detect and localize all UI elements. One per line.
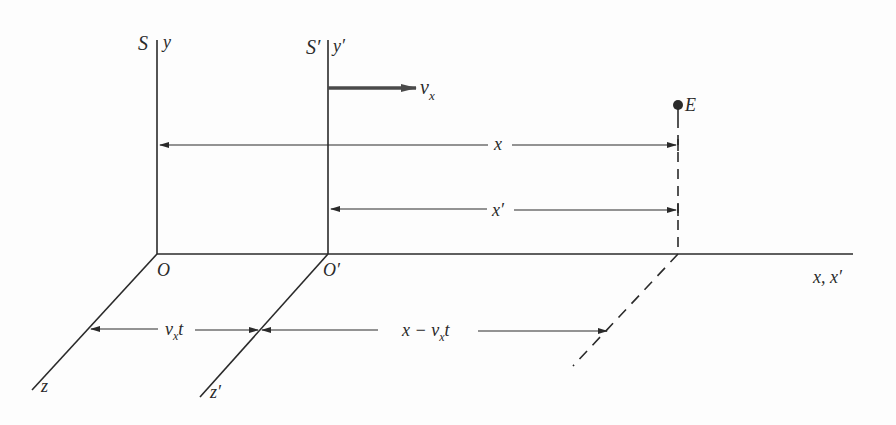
- event-E: E: [573, 95, 696, 366]
- origin-O-prime-label: O′: [323, 260, 341, 280]
- galilean-transformation-diagram: S y O z S′ y′ O′ z′ x, x′ vx E x: [0, 0, 896, 425]
- z-axis-S-prime: [200, 254, 328, 397]
- z-axis-S-prime-label: z′: [209, 382, 222, 402]
- velocity-vector: vx: [328, 76, 435, 103]
- event-label: E: [684, 95, 696, 115]
- frame-S-prime-label: S′: [306, 36, 321, 58]
- dimension-x: x: [160, 134, 678, 154]
- velocity-label: vx: [420, 76, 435, 103]
- z-axis-S-label: z: [40, 376, 48, 396]
- y-axis-S-prime-label: y′: [331, 36, 346, 56]
- dimension-vxt-label: vxt: [165, 319, 184, 343]
- origin-O-label: O: [157, 260, 170, 280]
- z-axis-S: [32, 254, 157, 390]
- event-z-projection-dashed: [573, 254, 678, 366]
- x-axis-label: x, x′: [812, 267, 843, 287]
- dimension-x-prime: x′: [331, 200, 678, 220]
- dimension-vxt: vxt: [91, 319, 258, 343]
- dimension-x-prime-label: x′: [491, 200, 505, 220]
- dimension-x-minus-vxt-label: x − vxt: [401, 320, 450, 344]
- y-axis-S-label: y: [161, 32, 171, 52]
- frame-S-prime: S′ y′ O′ z′: [200, 36, 346, 402]
- frame-S: S y O z: [32, 32, 171, 396]
- dimension-x-label: x: [493, 134, 502, 154]
- frame-S-label: S: [138, 32, 148, 54]
- dimension-x-minus-vxt: x − vxt: [262, 320, 607, 344]
